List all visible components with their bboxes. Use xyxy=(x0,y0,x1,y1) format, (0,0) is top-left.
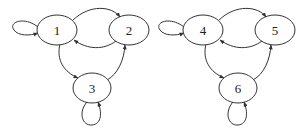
edge-4-to-6 xyxy=(205,44,224,78)
edge-1-to-2 xyxy=(73,8,120,20)
node-4: 4 xyxy=(183,15,223,45)
edge-2-to-1 xyxy=(74,40,116,48)
edge-6-6-self-loop xyxy=(228,102,247,125)
node-1: 1 xyxy=(37,15,77,45)
node-4-label: 4 xyxy=(200,23,207,38)
node-1-label: 1 xyxy=(54,23,61,38)
edge-4-4-self-loop xyxy=(159,21,184,35)
node-3: 3 xyxy=(73,73,111,103)
edge-3-3-self-loop xyxy=(82,102,101,125)
left-graph: 1 2 3 xyxy=(13,8,149,125)
node-3-label: 3 xyxy=(89,81,96,96)
edge-1-to-3 xyxy=(59,44,78,78)
right-graph: 4 5 6 xyxy=(159,8,295,125)
edge-6-to-5 xyxy=(253,45,271,80)
node-6-label: 6 xyxy=(235,81,242,96)
edge-4-to-5 xyxy=(219,8,266,20)
node-2: 2 xyxy=(109,15,149,45)
node-5-label: 5 xyxy=(272,23,279,38)
node-2-label: 2 xyxy=(126,23,133,38)
diagram-canvas: 1 2 3 4 5 6 xyxy=(0,0,304,136)
edge-5-to-4 xyxy=(220,40,262,48)
node-5: 5 xyxy=(255,15,295,45)
node-6: 6 xyxy=(219,73,257,103)
edge-1-1-self-loop xyxy=(13,21,38,35)
edge-3-to-2 xyxy=(107,45,125,80)
